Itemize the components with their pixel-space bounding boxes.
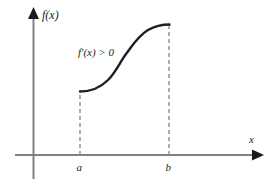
y-axis-arrowhead xyxy=(28,7,39,19)
x-axis-arrowhead xyxy=(252,150,264,161)
function-curve xyxy=(80,25,170,92)
figure-container: f(x) x f'(x) > 0 a b xyxy=(0,0,272,179)
function-graph: f(x) x f'(x) > 0 a b xyxy=(0,0,272,179)
tick-label-b: b xyxy=(166,161,172,173)
derivative-annotation: f'(x) > 0 xyxy=(78,46,115,59)
y-axis-label: f(x) xyxy=(42,8,59,22)
tick-label-a: a xyxy=(77,161,83,173)
x-axis-label: x xyxy=(248,133,254,145)
